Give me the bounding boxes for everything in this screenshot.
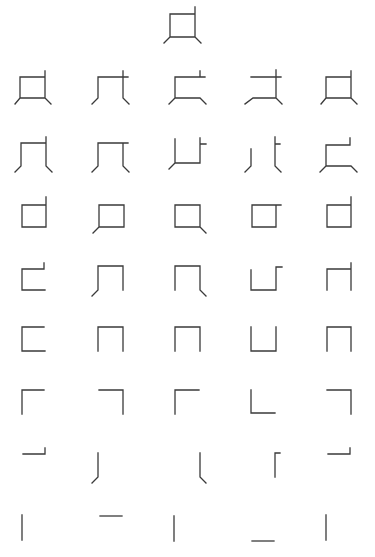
glyph-stroke bbox=[93, 205, 124, 233]
glyph-stroke bbox=[275, 453, 280, 477]
glyph-stroke bbox=[22, 197, 46, 227]
glyph-stroke bbox=[175, 266, 206, 296]
glyph-r7-c0 bbox=[23, 448, 45, 454]
glyph-r5-c0 bbox=[22, 327, 45, 351]
glyph-stroke bbox=[327, 197, 351, 227]
glyph-r5-c2 bbox=[175, 327, 200, 351]
glyph-stroke bbox=[169, 138, 206, 169]
glyph-stroke bbox=[99, 390, 123, 414]
glyph-r1-c2 bbox=[169, 71, 206, 104]
glyph-r3-c4 bbox=[327, 197, 351, 227]
glyph-stroke bbox=[164, 7, 201, 43]
glyph-stroke bbox=[252, 205, 281, 227]
glyph-r6-c1 bbox=[99, 390, 123, 414]
glyph-r5-c1 bbox=[98, 327, 123, 351]
glyph-r1-c4 bbox=[321, 71, 357, 104]
glyph-r3-c3 bbox=[252, 205, 281, 227]
glyph-r4-c2 bbox=[175, 266, 206, 296]
glyph-r6-c3 bbox=[251, 390, 275, 413]
glyph-stroke bbox=[22, 263, 45, 290]
glyph-r2-c4 bbox=[320, 138, 357, 172]
glyph-stroke bbox=[22, 327, 45, 351]
glyph-stroke bbox=[92, 71, 129, 104]
glyph-r6-c2 bbox=[175, 390, 199, 414]
glyph-stroke bbox=[251, 390, 275, 413]
glyph-r1-c0 bbox=[15, 71, 51, 104]
glyph-r2-c1 bbox=[92, 143, 129, 172]
glyph-stroke bbox=[245, 137, 281, 172]
glyph-grid bbox=[0, 0, 375, 557]
glyph-stroke bbox=[92, 453, 98, 483]
glyph-stroke bbox=[92, 266, 123, 296]
glyph-r7-c4 bbox=[328, 448, 350, 454]
glyph-r3-c2 bbox=[175, 205, 206, 233]
glyph-stroke bbox=[15, 71, 51, 104]
glyph-stroke bbox=[320, 138, 357, 172]
glyph-stroke bbox=[175, 327, 200, 351]
glyph-r3-c0 bbox=[22, 197, 46, 227]
glyph-r6-c4 bbox=[327, 390, 351, 414]
glyph-r4-c0 bbox=[22, 263, 45, 290]
glyph-r5-c4 bbox=[327, 327, 351, 351]
glyph-r3-c1 bbox=[93, 205, 124, 233]
glyph-stroke bbox=[328, 448, 350, 454]
glyph-r6-c0 bbox=[22, 390, 44, 414]
glyph-r4-c1 bbox=[92, 266, 123, 296]
glyph-stroke bbox=[327, 263, 351, 290]
glyph-r2-c0 bbox=[15, 137, 52, 172]
glyph-r7-c1 bbox=[92, 453, 98, 483]
glyph-r0-c2 bbox=[164, 7, 201, 43]
glyph-stroke bbox=[251, 267, 282, 290]
glyph-r4-c4 bbox=[327, 263, 351, 290]
glyph-stroke bbox=[22, 390, 44, 414]
glyph-stroke bbox=[175, 205, 206, 233]
glyph-stroke bbox=[251, 327, 276, 351]
glyph-stroke bbox=[327, 390, 351, 414]
glyph-stroke bbox=[321, 71, 357, 104]
glyph-r1-c3 bbox=[245, 70, 282, 104]
glyph-stroke bbox=[23, 448, 45, 454]
glyph-stroke bbox=[92, 143, 129, 172]
glyph-stroke bbox=[200, 453, 206, 483]
glyph-r7-c3 bbox=[275, 453, 280, 477]
glyph-stroke bbox=[327, 327, 351, 351]
glyph-stroke bbox=[15, 137, 52, 172]
glyph-stroke bbox=[245, 70, 282, 104]
glyph-r5-c3 bbox=[251, 327, 276, 351]
glyph-stroke bbox=[98, 327, 123, 351]
glyph-r1-c1 bbox=[92, 71, 129, 104]
glyph-r2-c2 bbox=[169, 138, 206, 169]
glyph-r2-c3 bbox=[245, 137, 281, 172]
glyph-r7-c2 bbox=[200, 453, 206, 483]
glyph-stroke bbox=[175, 390, 199, 414]
glyph-r4-c3 bbox=[251, 267, 282, 290]
glyph-stroke bbox=[169, 71, 206, 104]
